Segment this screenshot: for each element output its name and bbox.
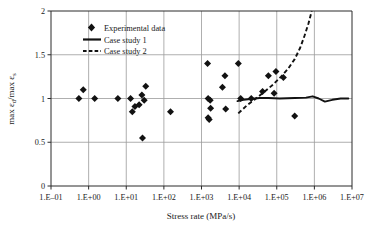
x-tick-label: 1.E+06 bbox=[302, 193, 326, 202]
x-tick-label: 1.E+01 bbox=[114, 193, 138, 202]
y-tick-label: 1 bbox=[41, 95, 45, 104]
x-tick-label: 1.E+00 bbox=[77, 193, 101, 202]
y-tick-label: 1.5 bbox=[35, 51, 45, 60]
legend-label-case-study-2: Case study 2 bbox=[104, 47, 147, 56]
y-tick-label: 2 bbox=[41, 7, 45, 16]
x-axis-title: Stress rate (MPa/s) bbox=[167, 211, 236, 221]
data-point-marker bbox=[219, 84, 226, 91]
data-point-marker bbox=[114, 95, 121, 102]
x-tick-label: 1.E+02 bbox=[152, 193, 176, 202]
data-point-marker bbox=[235, 60, 242, 67]
chart-legend: Experimental data Case study 1 Case stud… bbox=[83, 24, 165, 57]
data-point-marker bbox=[207, 105, 214, 112]
data-point-marker bbox=[167, 108, 174, 115]
y-axis-title-prefix: max bbox=[6, 107, 16, 125]
data-point-marker bbox=[204, 60, 211, 67]
y-tick-label: 0.5 bbox=[35, 138, 45, 147]
data-point-marker bbox=[221, 72, 228, 79]
data-point-marker bbox=[75, 95, 82, 102]
data-point-marker bbox=[127, 95, 134, 102]
data-point-marker bbox=[222, 106, 229, 113]
data-point-marker bbox=[265, 72, 272, 79]
data-point-marker bbox=[142, 83, 149, 90]
x-tick-label: 1.E–01 bbox=[39, 193, 62, 202]
data-point-marker bbox=[91, 95, 98, 102]
y-tick-label: 0 bbox=[41, 182, 45, 191]
x-tick-label: 1.E+03 bbox=[190, 193, 214, 202]
legend-label-experimental-data: Experimental data bbox=[104, 24, 165, 33]
y-axis-title-sub-s: s bbox=[10, 73, 17, 76]
legend-label-case-study-1: Case study 1 bbox=[104, 36, 147, 45]
data-point-marker bbox=[272, 68, 279, 75]
data-point-marker bbox=[80, 86, 87, 93]
x-tick-label: 1.E+04 bbox=[227, 193, 251, 202]
data-point-marker bbox=[139, 134, 146, 141]
data-point-marker bbox=[291, 113, 298, 120]
x-tick-label: 1.E+07 bbox=[340, 193, 364, 202]
x-tick-label: 1.E+05 bbox=[265, 193, 289, 202]
y-axis-title: max εd/max εs bbox=[6, 73, 17, 125]
chart-figure: 1.E–011.E+001.E+011.E+021.E+031.E+041.E+… bbox=[0, 0, 381, 226]
chart-canvas: 1.E–011.E+001.E+011.E+021.E+031.E+041.E+… bbox=[0, 0, 381, 226]
y-axis-title-slash: /max bbox=[6, 80, 16, 100]
series-experimental-data bbox=[75, 60, 298, 141]
